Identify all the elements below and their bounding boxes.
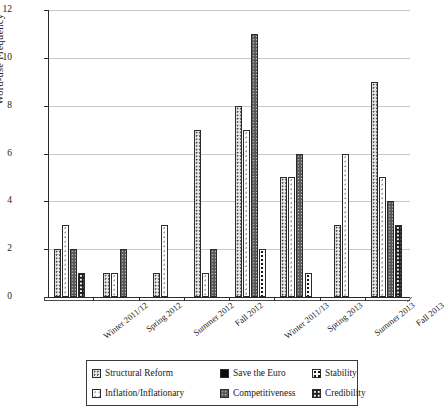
- legend-swatch-icon: [92, 369, 101, 378]
- bar: [103, 273, 110, 297]
- y-axis-tick-label: 12: [0, 5, 12, 15]
- bar: [202, 273, 209, 297]
- bar: [153, 273, 160, 297]
- y-axis-tick-label: 2: [0, 244, 12, 254]
- legend-item[interactable]: Stability: [312, 368, 364, 378]
- baseline-left-cap: [44, 297, 45, 301]
- bar-group: [229, 10, 274, 297]
- bar-group: [320, 10, 365, 297]
- legend-item[interactable]: Structural Reform: [92, 368, 220, 378]
- bar: [54, 249, 61, 297]
- y-axis-tick-label: 6: [0, 149, 12, 159]
- bar: [235, 106, 242, 297]
- bar-group: [139, 10, 184, 297]
- bar: [120, 249, 127, 297]
- bar: [70, 249, 77, 297]
- bar: [210, 249, 217, 297]
- bar: [288, 177, 295, 297]
- bar-group: [93, 10, 138, 297]
- bar: [305, 273, 312, 297]
- bar: [251, 34, 258, 297]
- y-axis-tick-label: 8: [0, 101, 12, 111]
- legend-label: Save the Euro: [233, 368, 286, 378]
- legend-item[interactable]: Save the Euro: [220, 368, 312, 378]
- bar: [371, 82, 378, 297]
- legend-swatch-icon: [312, 389, 321, 398]
- bar: [243, 130, 250, 297]
- bar: [395, 225, 402, 297]
- bar: [111, 273, 118, 297]
- bar: [296, 154, 303, 298]
- legend-item[interactable]: Credibility: [312, 388, 364, 398]
- legend-label: Inflation/Inflationary: [105, 388, 184, 398]
- x-axis-tick-label: Fall 2012: [233, 300, 265, 328]
- y-axis-tick-label: 10: [0, 53, 12, 63]
- x-axis-tick-label: Winter 2011/12: [101, 300, 149, 341]
- bar: [342, 154, 349, 298]
- bar: [334, 225, 341, 297]
- x-axis-tick-label: Summer 2012: [191, 300, 235, 338]
- bar: [379, 177, 386, 297]
- legend-label: Stability: [325, 368, 357, 378]
- x-axis-tick-label: Spring 2012: [144, 300, 183, 334]
- x-axis-tick-label: Winter 2011/13: [282, 300, 330, 341]
- y-axis-tick-label: 4: [0, 196, 12, 206]
- bar-series-container: [48, 10, 410, 297]
- x-axis-tick-label: Summer 2013: [372, 300, 416, 338]
- bar: [194, 130, 201, 297]
- bar-group: [274, 10, 319, 297]
- bar-group: [48, 10, 93, 297]
- bar: [78, 273, 85, 297]
- x-axis-tick-label: Spring 2013: [325, 300, 364, 334]
- legend-label: Structural Reform: [105, 368, 173, 378]
- bar: [280, 177, 287, 297]
- x-axis-labels: Winter 2011/12Spring 2012Summer 2012Fall…: [48, 300, 414, 354]
- chart-legend: Structural ReformSave the EuroStabilityI…: [86, 360, 358, 406]
- bar: [161, 225, 168, 297]
- bar-group: [365, 10, 410, 297]
- legend-swatch-icon: [220, 389, 229, 398]
- legend-swatch-icon: [92, 389, 101, 398]
- bar: [387, 201, 394, 297]
- legend-label: Credibility: [325, 388, 366, 398]
- legend-swatch-icon: [220, 369, 229, 378]
- bar-group: [184, 10, 229, 297]
- bar: [259, 249, 266, 297]
- x-axis-tick-label: Fall 2013: [414, 300, 446, 328]
- legend-swatch-icon: [312, 369, 321, 378]
- bar: [62, 225, 69, 297]
- legend-item[interactable]: Competitiveness: [220, 388, 312, 398]
- y-axis-tick-label: 0: [0, 292, 12, 302]
- legend-item[interactable]: Inflation/Inflationary: [92, 388, 220, 398]
- legend-label: Competitiveness: [233, 388, 296, 398]
